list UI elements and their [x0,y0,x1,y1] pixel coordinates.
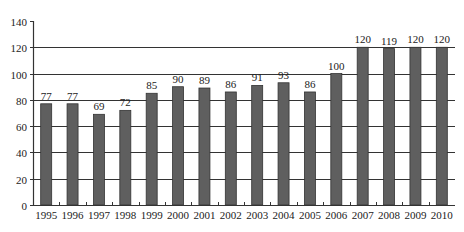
x-tick-label: 2006 [325,209,348,221]
data-label-2002: 86 [225,78,237,90]
x-tick-label: 2008 [378,209,401,221]
bar-2005 [304,92,315,205]
x-tick-label: 1999 [141,209,164,221]
y-tick-label: 20 [16,174,28,186]
bar-2010 [436,47,447,205]
chart-canvas: 7777697285908986919386100120119120120 02… [0,0,464,232]
y-axis-ticks: 020406080100120140 [11,16,34,212]
bar-2006 [331,74,342,205]
data-label-2003: 91 [252,71,263,83]
data-label-2000: 90 [173,73,185,85]
bar-2008 [384,49,395,205]
bar-2004 [278,83,289,205]
data-label-2006: 100 [328,60,345,72]
y-tick-label: 60 [16,121,28,133]
y-tick-label: 120 [11,42,28,54]
data-label-1995: 77 [41,90,53,102]
y-tick-label: 40 [16,147,28,159]
bar-2003 [252,85,263,205]
x-tick-label: 2007 [352,209,375,221]
bar-2002 [225,92,236,205]
bar-2000 [173,87,184,205]
data-label-2010: 120 [434,33,451,45]
data-label-1999: 85 [146,79,158,91]
bar-chart: 7777697285908986919386100120119120120 02… [0,0,464,232]
x-tick-label: 2002 [220,209,242,221]
x-tick-label: 2000 [167,209,190,221]
y-tick-label: 80 [16,95,28,107]
x-tick-label: 2004 [273,209,296,221]
data-label-2001: 89 [199,74,211,86]
bar-1997 [93,114,104,205]
y-tick-label: 0 [22,200,28,212]
x-tick-label: 1995 [35,209,58,221]
data-label-1998: 72 [120,96,131,108]
bar-1995 [41,104,52,205]
data-label-2005: 86 [304,78,316,90]
x-tick-label: 1998 [114,209,137,221]
data-label-1997: 69 [93,100,105,112]
data-label-1996: 77 [67,90,79,102]
x-tick-label: 1997 [88,209,111,221]
bar-2007 [357,47,368,205]
x-tick-label: 2003 [246,209,269,221]
y-tick-label: 100 [11,69,28,81]
x-tick-label: 2001 [193,209,215,221]
bar-2009 [410,47,421,205]
bar-2001 [199,88,210,205]
bar-1999 [146,93,157,205]
data-label-2008: 119 [381,35,398,47]
data-label-2009: 120 [407,33,424,45]
x-tick-label: 2010 [431,209,454,221]
x-tick-label: 1996 [62,209,85,221]
x-tick-label: 2009 [404,209,427,221]
y-tick-label: 140 [11,16,28,28]
x-tick-label: 2005 [299,209,322,221]
bar-1998 [120,110,131,205]
bar-1996 [67,104,78,205]
data-label-2007: 120 [354,33,371,45]
data-label-2004: 93 [278,69,290,81]
